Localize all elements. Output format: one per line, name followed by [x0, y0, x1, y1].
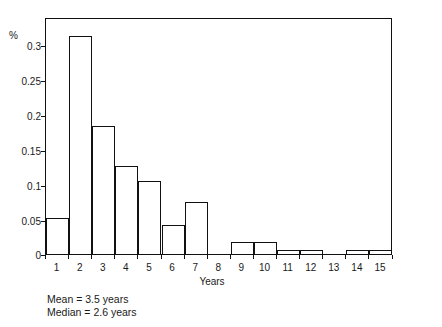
- x-tick-mark: [207, 255, 208, 259]
- histogram-bar: [346, 250, 369, 254]
- x-tick-label: 15: [374, 262, 385, 273]
- x-tick-label: 6: [169, 262, 175, 273]
- y-tick-label: 0.15: [1, 147, 41, 157]
- x-axis-title-text: Years: [199, 276, 224, 287]
- x-tick-label: 1: [54, 262, 60, 273]
- x-tick-mark: [45, 255, 46, 259]
- histogram-bar: [369, 250, 392, 254]
- histogram-bar: [46, 218, 69, 254]
- x-axis-title: Years: [0, 276, 442, 287]
- y-tick-label: 0.3: [1, 42, 41, 52]
- x-tick-label: 14: [351, 262, 362, 273]
- x-tick-mark: [114, 255, 115, 259]
- x-tick-mark: [161, 255, 162, 259]
- x-tick-mark: [368, 255, 369, 259]
- histogram-bar: [162, 225, 185, 255]
- x-tick-mark: [68, 255, 69, 259]
- histogram-bar: [69, 36, 92, 254]
- mean-text: Mean = 3.5 years: [47, 293, 137, 306]
- x-tick-mark: [253, 255, 254, 259]
- x-tick-mark: [345, 255, 346, 259]
- x-tick-mark: [230, 255, 231, 259]
- histogram-bar: [231, 242, 254, 254]
- histogram-bar: [254, 242, 277, 254]
- x-tick-mark: [276, 255, 277, 259]
- x-tick-label: 9: [239, 262, 245, 273]
- x-tick-mark: [137, 255, 138, 259]
- x-tick-mark: [299, 255, 300, 259]
- statistics-caption: Mean = 3.5 years Median = 2.6 years: [47, 293, 137, 319]
- x-tick-label: 5: [146, 262, 152, 273]
- x-tick-label: 12: [305, 262, 316, 273]
- x-tick-label: 13: [328, 262, 339, 273]
- x-tick-label: 7: [192, 262, 198, 273]
- x-tick-mark: [392, 255, 393, 259]
- median-text: Median = 2.6 years: [47, 306, 137, 319]
- x-tick-label: 4: [123, 262, 129, 273]
- y-tick-label: 0: [1, 251, 41, 261]
- x-tick-label: 10: [259, 262, 270, 273]
- y-tick-label: 0.1: [1, 182, 41, 192]
- y-tick-label: 0.25: [1, 77, 41, 87]
- histogram-bar: [115, 166, 138, 254]
- histogram-figure: % 0.3 0.25 0.2 0.15 0.1 0.05 0: [0, 0, 442, 327]
- x-tick-mark: [91, 255, 92, 259]
- y-tick-label: 0.05: [1, 217, 41, 227]
- histogram-bar: [92, 126, 115, 255]
- histogram-bar: [185, 202, 208, 254]
- histogram-bar: [300, 250, 323, 254]
- x-tick-label: 11: [282, 262, 292, 273]
- histogram-bar: [138, 181, 161, 255]
- x-tick-label: 8: [216, 262, 222, 273]
- x-tick-mark: [184, 255, 185, 259]
- histogram-bar: [277, 250, 300, 254]
- y-tick-label: 0.2: [1, 112, 41, 122]
- plot-area: [45, 18, 392, 255]
- x-tick-mark: [322, 255, 323, 259]
- x-tick-label: 3: [100, 262, 106, 273]
- x-tick-label: 2: [77, 262, 83, 273]
